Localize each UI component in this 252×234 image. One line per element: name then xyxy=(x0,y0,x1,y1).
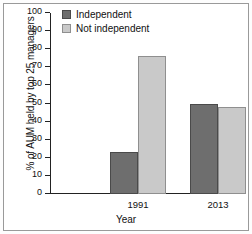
legend-item: Independent xyxy=(62,8,149,21)
y-tick: 80 xyxy=(45,48,50,49)
y-tick-label: 20 xyxy=(32,151,42,161)
y-tick-label: 10 xyxy=(32,169,42,179)
y-tick-label: 30 xyxy=(32,133,42,143)
y-tick-label: 100 xyxy=(27,6,42,16)
x-tick-label: 1991 xyxy=(127,199,148,210)
y-tick: 10 xyxy=(45,175,50,176)
y-tick: 90 xyxy=(45,30,50,31)
chart-figure: % of AUM held by top 25 managers 1009080… xyxy=(0,0,252,234)
dark-swatch xyxy=(62,10,71,19)
legend-label: Not independent xyxy=(76,23,149,34)
bar xyxy=(190,104,218,195)
y-tick: 0 xyxy=(45,193,50,194)
y-tick: 30 xyxy=(45,139,50,140)
legend-label: Independent xyxy=(76,9,132,20)
chart-legend: IndependentNot independent xyxy=(62,8,149,36)
x-tick-label: 2013 xyxy=(207,199,228,210)
bar xyxy=(138,56,166,194)
y-axis-line xyxy=(50,13,51,194)
y-tick: 70 xyxy=(45,66,50,67)
y-tick-label: 90 xyxy=(32,24,42,34)
light-swatch xyxy=(62,24,71,33)
y-tick-label: 40 xyxy=(32,115,42,125)
y-tick-label: 50 xyxy=(32,97,42,107)
bar xyxy=(110,152,138,194)
y-tick: 60 xyxy=(45,84,50,85)
legend-item: Not independent xyxy=(62,22,149,35)
y-tick: 100 xyxy=(45,12,50,13)
y-tick-label: 0 xyxy=(37,187,42,197)
y-tick: 40 xyxy=(45,121,50,122)
y-tick-label: 70 xyxy=(32,60,42,70)
bar xyxy=(218,107,246,194)
y-tick-label: 80 xyxy=(32,42,42,52)
y-tick: 50 xyxy=(45,103,50,104)
x-axis-title: Year xyxy=(0,214,252,225)
y-tick: 20 xyxy=(45,157,50,158)
plot-area: 1009080706050403020100 xyxy=(50,13,242,194)
y-tick-label: 60 xyxy=(32,78,42,88)
